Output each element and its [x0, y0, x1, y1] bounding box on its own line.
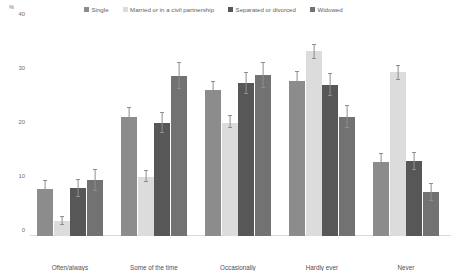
bar-slot — [54, 20, 70, 236]
legend-item[interactable]: Married or in a civil partnership — [123, 6, 214, 13]
bar-group — [205, 20, 271, 236]
error-bar — [162, 112, 163, 133]
error-bar-cap-top — [144, 170, 148, 171]
error-bar — [430, 184, 431, 201]
bar-slot — [205, 20, 221, 236]
error-bar-cap-top — [345, 105, 349, 106]
error-bar-cap-bottom — [228, 127, 232, 128]
x-axis-category-label: Some of the time — [130, 264, 178, 271]
legend-item-label: Married or in a civil partnership — [130, 6, 214, 13]
error-bar-cap-top — [412, 152, 416, 153]
error-bar-cap-bottom — [244, 93, 248, 94]
bar-slot — [423, 20, 439, 236]
bar-slot — [171, 20, 187, 236]
bar[interactable] — [238, 83, 254, 236]
legend-swatch-icon — [84, 7, 89, 12]
error-bar — [78, 180, 79, 197]
error-bar-cap-top — [396, 65, 400, 66]
error-bar — [213, 82, 214, 100]
legend-item[interactable]: Single — [84, 6, 109, 13]
bar[interactable] — [121, 117, 137, 236]
bar[interactable] — [138, 177, 154, 236]
error-bar-cap-top — [295, 71, 299, 72]
error-bar-cap-bottom — [379, 169, 383, 170]
bar[interactable] — [222, 123, 238, 236]
bar[interactable] — [373, 162, 389, 236]
error-bar-cap-bottom — [43, 196, 47, 197]
legend-swatch-icon — [123, 7, 128, 12]
plot-area: 010203040Often/alwaysSome of the timeOcc… — [30, 20, 451, 236]
x-axis-category-label: Occasionally — [220, 264, 256, 271]
error-bar — [246, 72, 247, 93]
error-bar — [45, 181, 46, 197]
y-axis-tick-label: 30 — [18, 65, 25, 71]
error-bar-cap-bottom — [60, 224, 64, 225]
bar[interactable] — [306, 51, 322, 236]
bar[interactable] — [171, 76, 187, 236]
legend-item[interactable]: Separated or divorced — [228, 6, 296, 13]
error-bar-cap-bottom — [160, 132, 164, 133]
bar-slot — [339, 20, 355, 236]
legend-item-label: Separated or divorced — [236, 6, 296, 13]
legend-item-label: Widowed — [317, 6, 342, 13]
error-bar — [94, 170, 95, 191]
bar[interactable] — [255, 75, 271, 236]
bar-slot — [70, 20, 86, 236]
error-bar-cap-top — [127, 107, 131, 108]
error-bar — [414, 153, 415, 170]
error-bar-cap-top — [429, 183, 433, 184]
error-bar-cap-bottom — [312, 58, 316, 59]
error-bar — [313, 44, 314, 58]
error-bar-cap-bottom — [76, 196, 80, 197]
bar-group — [289, 20, 355, 236]
error-bar — [297, 72, 298, 90]
legend-item-label: Single — [92, 6, 109, 13]
bar-slot — [238, 20, 254, 236]
bar-slot — [138, 20, 154, 236]
error-bar-cap-top — [177, 62, 181, 63]
y-axis-tick-label: 0 — [22, 227, 25, 233]
legend-item[interactable]: Widowed — [310, 6, 343, 13]
error-bar — [346, 106, 347, 128]
error-bar-cap-bottom — [412, 169, 416, 170]
error-bar-cap-bottom — [328, 95, 332, 96]
error-bar-cap-top — [261, 62, 265, 63]
bar-slot — [154, 20, 170, 236]
bar[interactable] — [205, 90, 221, 236]
error-bar — [129, 108, 130, 127]
bar[interactable] — [339, 117, 355, 236]
error-bar-cap-bottom — [345, 127, 349, 128]
error-bar — [397, 65, 398, 79]
bar-slot — [37, 20, 53, 236]
error-bar-cap-top — [312, 44, 316, 45]
legend-swatch-icon — [228, 7, 233, 12]
error-bar — [262, 63, 263, 88]
x-axis-category-label: Never — [397, 264, 414, 271]
y-axis-tick-label: 20 — [18, 119, 25, 125]
bar[interactable] — [154, 123, 170, 236]
bar-slot — [406, 20, 422, 236]
y-axis-unit-label: % — [9, 4, 14, 10]
error-bar-cap-bottom — [396, 79, 400, 80]
error-bar-cap-top — [93, 169, 97, 170]
bar[interactable] — [289, 81, 305, 236]
error-bar-cap-top — [160, 112, 164, 113]
error-bar-cap-top — [76, 179, 80, 180]
error-bar-cap-top — [228, 115, 232, 116]
bar[interactable] — [406, 161, 422, 236]
bar-group — [373, 20, 439, 236]
x-axis-category-label: Hardly ever — [306, 264, 338, 271]
error-bar-cap-top — [328, 73, 332, 74]
bar-slot — [121, 20, 137, 236]
bar-slot — [222, 20, 238, 236]
error-bar-cap-top — [244, 72, 248, 73]
error-bar-cap-bottom — [93, 190, 97, 191]
error-bar-cap-bottom — [429, 200, 433, 201]
bar[interactable] — [322, 85, 338, 236]
error-bar-cap-bottom — [211, 99, 215, 100]
bar[interactable] — [390, 72, 406, 236]
chart-legend: SingleMarried or in a civil partnershipS… — [84, 3, 357, 15]
error-bar-cap-bottom — [295, 89, 299, 90]
error-bar-cap-bottom — [261, 87, 265, 88]
